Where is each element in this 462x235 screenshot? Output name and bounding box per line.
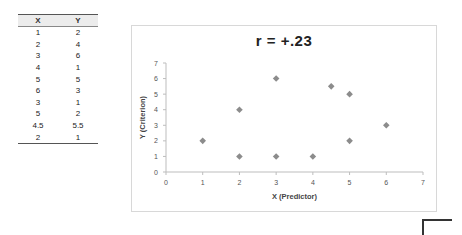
cell-y: 5 xyxy=(58,73,98,85)
table-header-row: X Y xyxy=(18,15,98,27)
cell-x: 3 xyxy=(18,50,58,62)
data-table: X Y 12243641556331524.55.521 xyxy=(18,14,98,144)
plot-area: 0123456701234567X (Predictor)Y (Criterio… xyxy=(132,26,436,211)
cell-x: 4.5 xyxy=(18,120,58,132)
data-point-diamond-icon xyxy=(310,153,317,160)
cell-x: 2 xyxy=(18,131,58,143)
cell-x: 1 xyxy=(18,27,58,39)
x-tick-label: 5 xyxy=(348,179,352,186)
table-row: 21 xyxy=(18,131,98,143)
y-tick-label: 7 xyxy=(154,60,158,67)
table-row: 31 xyxy=(18,97,98,109)
table-row: 55 xyxy=(18,73,98,85)
cell-y: 2 xyxy=(58,27,98,39)
x-tick-label: 7 xyxy=(421,179,425,186)
data-point-diamond-icon xyxy=(199,138,206,145)
cell-y: 2 xyxy=(58,108,98,120)
table-row: 36 xyxy=(18,50,98,62)
x-axis-title: X (Predictor) xyxy=(272,192,318,201)
cell-x: 6 xyxy=(18,85,58,97)
cell-y: 1 xyxy=(58,97,98,109)
x-tick-label: 4 xyxy=(311,179,315,186)
cell-y: 1 xyxy=(58,62,98,74)
x-tick-label: 1 xyxy=(201,179,205,186)
cell-x: 3 xyxy=(18,97,58,109)
x-tick-label: 3 xyxy=(274,179,278,186)
data-point-diamond-icon xyxy=(328,83,335,90)
x-tick-label: 0 xyxy=(164,179,168,186)
table-row: 41 xyxy=(18,62,98,74)
x-tick-label: 2 xyxy=(237,179,241,186)
scatter-chart: r = +.23 0123456701234567X (Predictor)Y … xyxy=(131,25,437,212)
y-axis-title: Y (Criterion) xyxy=(138,95,147,139)
data-point-diamond-icon xyxy=(273,153,280,160)
data-point-diamond-icon xyxy=(236,106,243,113)
cell-y: 4 xyxy=(58,39,98,51)
corner-bracket xyxy=(422,219,452,235)
column-header-x: X xyxy=(18,15,58,27)
data-point-diamond-icon xyxy=(346,91,353,98)
y-tick-label: 5 xyxy=(154,91,158,98)
y-tick-label: 1 xyxy=(154,153,158,160)
cell-x: 4 xyxy=(18,62,58,74)
data-point-diamond-icon xyxy=(273,75,280,82)
cell-x: 5 xyxy=(18,108,58,120)
cell-x: 2 xyxy=(18,39,58,51)
y-tick-label: 3 xyxy=(154,122,158,129)
table-row: 63 xyxy=(18,85,98,97)
y-tick-label: 4 xyxy=(154,106,158,113)
cell-y: 6 xyxy=(58,50,98,62)
cell-y: 3 xyxy=(58,85,98,97)
column-header-y: Y xyxy=(58,15,98,27)
y-tick-label: 2 xyxy=(154,137,158,144)
table-row: 4.55.5 xyxy=(18,120,98,132)
cell-y: 5.5 xyxy=(58,120,98,132)
table-row: 24 xyxy=(18,39,98,51)
cell-y: 1 xyxy=(58,131,98,143)
data-point-diamond-icon xyxy=(346,138,353,145)
data-point-diamond-icon xyxy=(236,153,243,160)
cell-x: 5 xyxy=(18,73,58,85)
table-row: 52 xyxy=(18,108,98,120)
y-tick-label: 6 xyxy=(154,75,158,82)
data-point-diamond-icon xyxy=(383,122,390,129)
table-row: 12 xyxy=(18,27,98,39)
x-tick-label: 6 xyxy=(384,179,388,186)
y-tick-label: 0 xyxy=(154,169,158,176)
